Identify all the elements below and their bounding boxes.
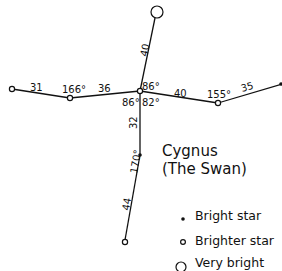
- brighter-star-icon: [9, 86, 14, 91]
- constellation-title: Cygnus (The Swan): [162, 142, 247, 178]
- segment-labels: 31 36 40 40 35 32 44: [30, 43, 255, 212]
- brighter-star-icon: [215, 100, 220, 105]
- brighter-star-icon: [67, 95, 72, 100]
- cygnus-star-diagram: 31 36 40 40 35 32 44 166° 86° 86° 82° 15…: [0, 0, 282, 271]
- label-right: 40: [174, 88, 187, 99]
- label-far-right: 35: [240, 80, 255, 94]
- angle-center-lower-right: 82°: [142, 97, 160, 108]
- legend-bright-star-icon: [181, 217, 185, 221]
- legend-very-bright-star-icon: [176, 262, 186, 271]
- legend-brighter-label: Brighter star: [195, 233, 275, 248]
- angle-center-upper-right: 86°: [142, 81, 160, 92]
- angle-right-star: 155°: [207, 89, 231, 100]
- legend-bright-label: Bright star: [195, 208, 262, 223]
- angle-lower-star: 170°: [128, 149, 143, 175]
- angle-left-star: 166°: [62, 84, 86, 95]
- title-line-1: Cygnus: [162, 142, 218, 160]
- label-left: 36: [98, 83, 111, 94]
- legend-brighter-star-icon: [181, 240, 186, 245]
- label-far-left: 31: [30, 82, 43, 93]
- very-bright-star-icon: [151, 6, 163, 18]
- title-line-2: (The Swan): [162, 160, 247, 178]
- angle-center-lower-left: 86°: [122, 97, 140, 108]
- label-top: 40: [138, 43, 151, 58]
- label-bottom: 44: [120, 197, 133, 211]
- brighter-star-icon: [122, 239, 127, 244]
- legend-very-bright-label: Very bright: [195, 255, 264, 270]
- legend: Bright star Brighter star Very bright: [176, 208, 275, 271]
- label-lower: 32: [128, 116, 139, 129]
